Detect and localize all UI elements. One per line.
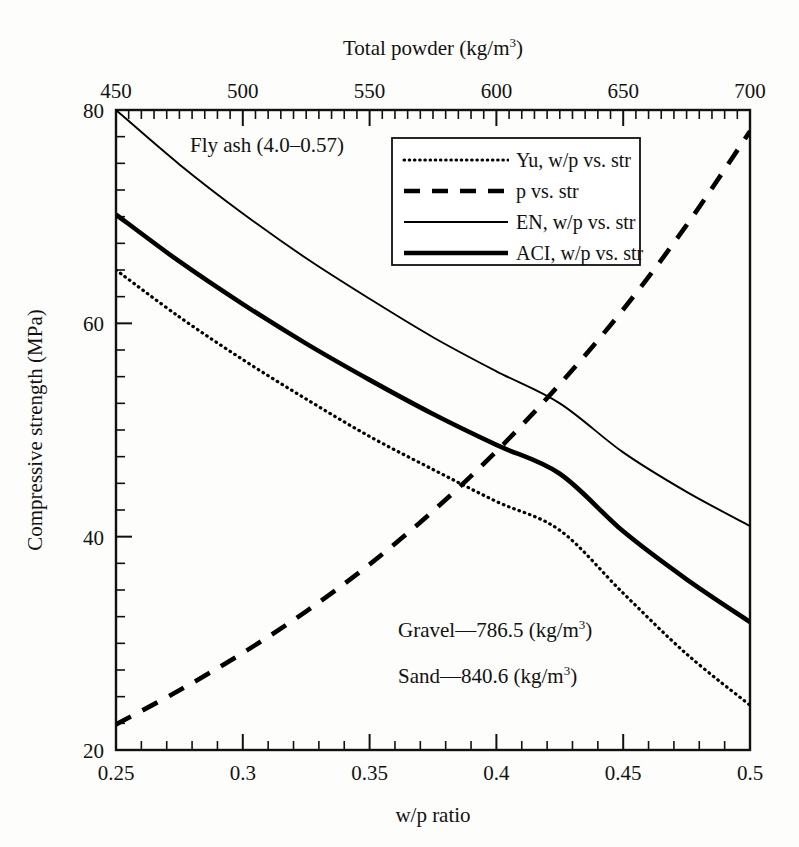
bottom-tick-label: 0.25 (98, 761, 135, 785)
top-tick-label: 600 (481, 79, 513, 103)
legend-label-3[interactable]: ACI, w/p vs. str (516, 242, 644, 265)
figure-container: Total powder (kg/m3) w/p ratio Compressi… (0, 0, 799, 847)
top-axis-ticks (116, 110, 750, 126)
chart-plot: Total powder (kg/m3) w/p ratio Compressi… (0, 0, 799, 847)
bottom-axis-tick-labels: 0.250.30.350.40.450.5 (98, 761, 764, 785)
bottom-axis-ticks (116, 734, 750, 750)
bottom-tick-label: 0.3 (230, 761, 256, 785)
bottom-tick-label: 0.4 (483, 761, 510, 785)
chart-legend[interactable]: Yu, w/p vs. strp vs. strEN, w/p vs. strA… (392, 138, 644, 265)
bottom-tick-label: 0.35 (351, 761, 388, 785)
top-tick-label: 650 (607, 79, 639, 103)
annotation-sand: Sand—840.6 (kg/m3) (398, 663, 577, 688)
annotation-gravel: Gravel—786.5 (kg/m3) (398, 617, 592, 642)
y-axis-tick-labels: 20406080 (83, 99, 104, 763)
legend-label-0[interactable]: Yu, w/p vs. str (516, 149, 631, 172)
bottom-tick-label: 0.45 (605, 761, 642, 785)
y-axis-title: Compressive strength (MPa) (23, 309, 47, 550)
bottom-tick-label: 0.5 (737, 761, 763, 785)
annotation-fly-ash: Fly ash (4.0–0.57) (190, 133, 344, 157)
top-tick-label: 500 (227, 79, 259, 103)
top-axis-title: Total powder (kg/m3) (343, 35, 523, 60)
legend-label-2[interactable]: EN, w/p vs. str (516, 211, 636, 234)
curve-aci (116, 215, 750, 622)
y-axis-ticks (116, 110, 132, 750)
top-tick-label: 450 (100, 79, 132, 103)
y-tick-label: 20 (83, 739, 104, 763)
top-tick-label: 700 (734, 79, 766, 103)
top-axis-tick-labels: 450500550600650700 (100, 79, 766, 103)
bottom-axis-title: w/p ratio (395, 803, 470, 827)
y-tick-label: 40 (83, 526, 104, 550)
y-tick-label: 60 (83, 312, 104, 336)
legend-label-1[interactable]: p vs. str (516, 180, 579, 203)
y-tick-label: 80 (83, 99, 104, 123)
top-tick-label: 550 (354, 79, 386, 103)
